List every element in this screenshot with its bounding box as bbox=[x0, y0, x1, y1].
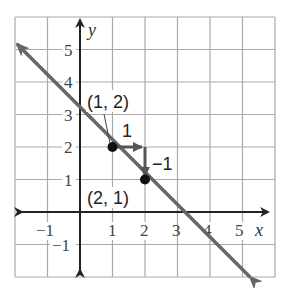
run-label: 1 bbox=[122, 121, 132, 141]
y-tick-4: 4 bbox=[64, 73, 73, 92]
y-axis-label: y bbox=[86, 20, 96, 40]
point-1-2 bbox=[108, 142, 118, 152]
y-tick-neg1: −1 bbox=[52, 236, 70, 255]
x-axis-label: x bbox=[254, 220, 263, 240]
point-b-label: (2, 1) bbox=[87, 188, 129, 208]
y-tick-2: 2 bbox=[64, 138, 73, 157]
point-2-1 bbox=[140, 175, 150, 185]
x-tick-5: 5 bbox=[235, 221, 244, 240]
x-tick-1: 1 bbox=[108, 221, 117, 240]
coordinate-plane: −1 1 2 3 4 5 x 5 4 3 2 1 −1 y (1, 2) 1 bbox=[0, 0, 285, 288]
slope-indicators bbox=[113, 147, 146, 176]
y-tick-3: 3 bbox=[64, 106, 73, 125]
y-tick-1: 1 bbox=[64, 171, 73, 190]
point-a-label: (1, 2) bbox=[87, 92, 129, 112]
x-tick-3: 3 bbox=[172, 221, 181, 240]
x-tick-2: 2 bbox=[140, 221, 149, 240]
rise-label: −1 bbox=[152, 154, 173, 174]
y-tick-5: 5 bbox=[64, 41, 73, 60]
label-pointer bbox=[104, 114, 110, 143]
tick-labels: −1 1 2 3 4 5 x 5 4 3 2 1 −1 y bbox=[34, 20, 263, 255]
